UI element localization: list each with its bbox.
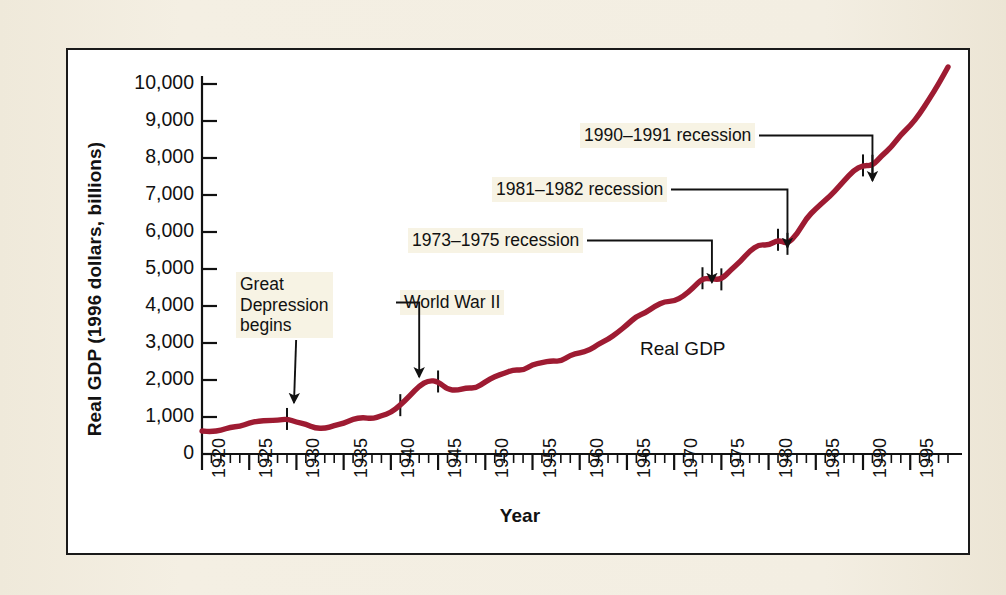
annotation-leader-lines xyxy=(294,136,872,403)
axes-lines xyxy=(202,76,962,454)
leader-line xyxy=(294,340,296,403)
chart-panel: Real GDP (1996 dollars, billions) Year 1… xyxy=(66,48,970,555)
leader-line xyxy=(759,136,872,181)
event-marker-bars xyxy=(287,154,872,430)
leader-line xyxy=(587,241,712,283)
axis-ticks xyxy=(202,84,948,470)
leader-line xyxy=(396,303,419,377)
real-gdp-line xyxy=(202,67,948,431)
series-inline-label: Real GDP xyxy=(640,338,726,360)
plot-area xyxy=(68,50,972,557)
leader-line xyxy=(671,190,787,248)
